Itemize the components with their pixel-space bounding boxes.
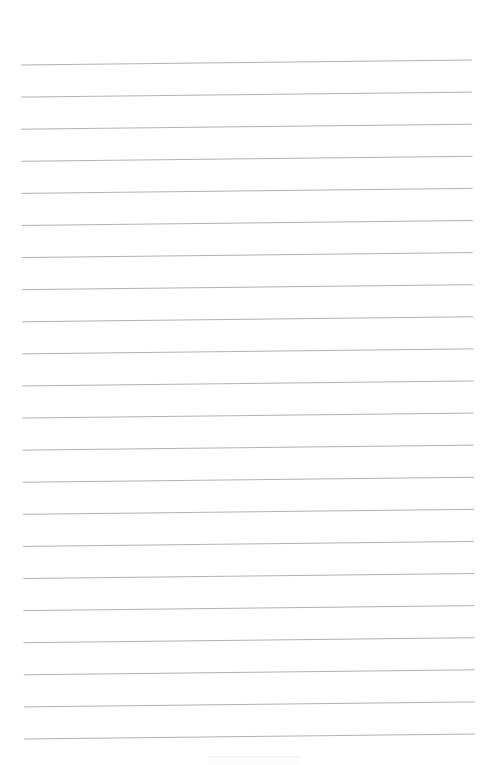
ruled-line: [21, 60, 472, 65]
ruled-line: [23, 606, 474, 611]
ruled-line: [24, 670, 475, 675]
ruled-line: [24, 702, 475, 707]
ruled-line: [22, 253, 473, 258]
ruled-line: [21, 124, 472, 129]
ruled-line: [23, 509, 474, 514]
ruled-line: [21, 92, 472, 97]
ruled-line: [22, 381, 473, 386]
ruled-line: [23, 541, 474, 546]
footer-label: [208, 756, 300, 765]
ruled-line: [23, 413, 474, 418]
ruled-line: [22, 317, 473, 322]
ruled-line: [22, 349, 473, 354]
ruled-line: [24, 638, 475, 643]
ruled-line: [23, 574, 474, 579]
ruled-line: [21, 156, 472, 161]
ruled-line: [24, 734, 475, 739]
ruled-line: [22, 220, 473, 225]
ruled-line: [22, 285, 473, 290]
ruled-line: [22, 188, 473, 193]
ruled-line: [23, 445, 474, 450]
ruled-line: [23, 477, 474, 482]
